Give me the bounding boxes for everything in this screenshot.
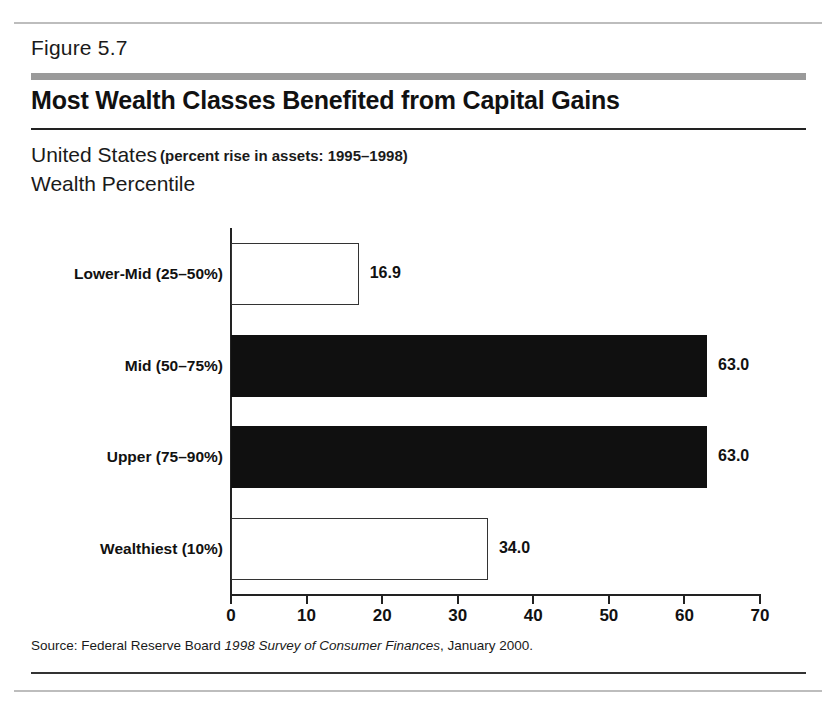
source-prefix: Source: Federal Reserve Board [31,638,225,653]
x-tick-20 [381,596,383,604]
bar-0 [231,243,359,305]
category-label-3: Wealthiest (10%) [38,540,223,558]
x-axis-line [230,594,761,596]
x-tick-label-70: 70 [751,606,770,626]
chart-plot-area: Lower-Mid (25–50%)16.9Mid (50–75%)63.0Up… [0,0,836,703]
x-tick-label-30: 30 [448,606,467,626]
source-suffix: , January 2000. [440,638,533,653]
x-tick-50 [608,596,610,604]
page-rule-bottom [14,690,822,692]
x-tick-label-10: 10 [297,606,316,626]
value-label-3: 34.0 [499,539,530,557]
category-label-1: Mid (50–75%) [38,357,223,375]
value-label-1: 63.0 [718,356,749,374]
source-note: Source: Federal Reserve Board 1998 Surve… [31,638,533,653]
figure-container: Figure 5.7 Most Wealth Classes Benefited… [0,0,836,703]
source-divider [31,672,806,674]
category-label-2: Upper (75–90%) [38,448,223,466]
value-label-0: 16.9 [370,264,401,282]
x-tick-30 [457,596,459,604]
x-tick-70 [759,596,761,604]
x-tick-label-20: 20 [373,606,392,626]
x-tick-label-50: 50 [599,606,618,626]
bar-3 [231,518,488,580]
bar-1 [231,335,707,397]
x-tick-label-0: 0 [226,606,235,626]
value-label-2: 63.0 [718,447,749,465]
x-tick-0 [230,596,232,604]
x-tick-60 [683,596,685,604]
bar-2 [231,426,707,488]
x-tick-label-40: 40 [524,606,543,626]
x-tick-40 [532,596,534,604]
x-tick-label-60: 60 [675,606,694,626]
x-tick-10 [306,596,308,604]
source-title: 1998 Survey of Consumer Finances [225,638,440,653]
category-label-0: Lower-Mid (25–50%) [38,265,223,283]
